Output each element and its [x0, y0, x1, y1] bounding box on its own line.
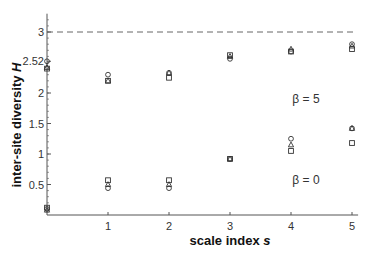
square-marker [289, 149, 294, 154]
x-axis-title: scale index s [190, 233, 271, 248]
y-tick-label: 3 [38, 26, 44, 38]
scatter-chart: 0.511.522.52312345 scale index s inter-s… [0, 0, 371, 257]
x-tick-label: 2 [166, 220, 172, 232]
square-marker [167, 75, 172, 80]
x-tick-label: 5 [349, 220, 355, 232]
y-tick-label: 0.5 [29, 179, 44, 191]
square-marker [350, 141, 355, 146]
beta-5-annotation: β = 5 [292, 92, 320, 106]
circle-marker [289, 136, 294, 141]
y-tick-label: 1 [38, 148, 44, 160]
circle-marker [106, 72, 111, 77]
y-tick-label: 2 [38, 87, 44, 99]
x-tick-label: 1 [105, 220, 111, 232]
x-tick-label: 4 [288, 220, 294, 232]
beta-0-annotation: β = 0 [292, 173, 320, 187]
x-tick-label: 3 [227, 220, 233, 232]
y-tick-label: 2.52 [23, 55, 44, 67]
axes: 0.511.522.52312345 [23, 14, 359, 232]
square-marker [350, 47, 355, 52]
y-tick-label: 1.5 [29, 118, 44, 130]
triangle-marker [288, 142, 293, 147]
y-axis-title: inter-site diversity H [9, 62, 24, 188]
